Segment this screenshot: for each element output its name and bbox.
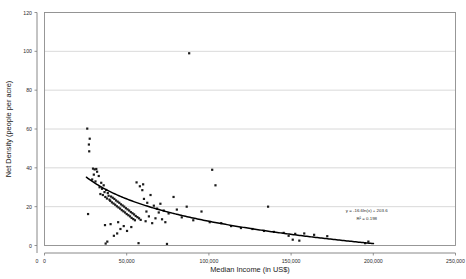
- svg-text:0: 0: [36, 258, 39, 264]
- svg-text:0: 0: [29, 243, 32, 249]
- data-point: [100, 182, 102, 184]
- data-point: [303, 232, 305, 234]
- data-point: [200, 210, 202, 212]
- data-point: [89, 138, 91, 140]
- data-point: [214, 184, 216, 186]
- data-point: [86, 128, 88, 130]
- data-point: [172, 196, 174, 198]
- data-point: [149, 194, 151, 196]
- data-point: [102, 194, 104, 196]
- data-point: [134, 219, 136, 221]
- data-point: [267, 206, 269, 208]
- data-point: [108, 195, 110, 197]
- data-point: [188, 52, 190, 54]
- svg-text:150,000: 150,000: [282, 258, 301, 264]
- data-point: [88, 143, 90, 145]
- data-point: [117, 221, 119, 223]
- data-point: [211, 169, 213, 171]
- data-point: [143, 198, 145, 200]
- data-point: [161, 218, 163, 220]
- data-point: [103, 184, 105, 186]
- data-point: [88, 150, 90, 152]
- data-point: [159, 203, 161, 205]
- svg-text:50,000: 50,000: [119, 258, 135, 264]
- data-point: [95, 168, 97, 170]
- svg-text:40: 40: [26, 165, 32, 171]
- x-axis-title: Median Income (in US$): [210, 265, 290, 274]
- svg-text:120: 120: [23, 10, 32, 16]
- svg-text:20: 20: [26, 204, 32, 210]
- data-point: [292, 239, 294, 241]
- data-point: [96, 171, 98, 173]
- data-point: [139, 185, 141, 187]
- gridlines: [45, 13, 456, 207]
- data-point: [151, 222, 153, 224]
- svg-text:200,000: 200,000: [364, 258, 383, 264]
- data-point: [181, 216, 183, 218]
- chart-container: 050,000100,000150,000200,000250,000 0204…: [0, 0, 466, 279]
- data-point: [116, 232, 118, 234]
- data-point: [146, 202, 148, 204]
- data-point: [135, 181, 137, 183]
- data-point: [113, 235, 115, 237]
- svg-text:0: 0: [43, 258, 46, 264]
- data-point: [98, 175, 100, 177]
- svg-text:100,000: 100,000: [200, 258, 219, 264]
- data-point: [176, 208, 178, 210]
- data-point: [140, 219, 142, 221]
- data-point: [119, 228, 121, 230]
- data-point: [153, 205, 155, 207]
- data-point: [137, 242, 139, 244]
- data-point: [105, 242, 107, 244]
- annotation-line-1: R² = 0.198: [356, 216, 377, 221]
- data-point: [164, 221, 166, 223]
- data-point: [298, 240, 300, 242]
- data-point: [93, 174, 95, 176]
- x-axis-ticks: 050,000100,000150,000200,000250,000: [43, 253, 465, 264]
- trendline-equation-annotation: y = -16.6ln(x) + 203.6R² = 0.198: [346, 208, 388, 221]
- data-points: [86, 52, 369, 245]
- svg-text:250,000: 250,000: [446, 258, 465, 264]
- data-point: [87, 213, 89, 215]
- data-point: [186, 206, 188, 208]
- svg-text:80: 80: [26, 87, 32, 93]
- data-point: [106, 241, 108, 243]
- data-point: [141, 189, 143, 191]
- data-point: [158, 211, 160, 213]
- data-point: [106, 197, 108, 199]
- data-point: [166, 243, 168, 245]
- data-point: [123, 225, 125, 227]
- data-point: [288, 235, 290, 237]
- data-point: [148, 215, 150, 217]
- data-point: [154, 217, 156, 219]
- data-point: [126, 230, 128, 232]
- svg-text:100: 100: [23, 48, 32, 54]
- scatter-chart: 050,000100,000150,000200,000250,000 0204…: [0, 0, 466, 279]
- y-axis-ticks: 0204060801001200: [23, 10, 38, 264]
- data-point: [192, 219, 194, 221]
- data-point: [130, 226, 132, 228]
- data-point: [104, 224, 106, 226]
- data-point: [313, 234, 315, 236]
- data-point: [107, 192, 109, 194]
- y-axis-title: Net Density (people per acre): [4, 81, 13, 178]
- data-point: [103, 191, 105, 193]
- data-point: [326, 235, 328, 237]
- data-point: [99, 193, 101, 195]
- data-point: [145, 210, 147, 212]
- data-point: [109, 223, 111, 225]
- data-point: [142, 183, 144, 185]
- svg-text:60: 60: [26, 126, 32, 132]
- annotation-line-0: y = -16.6ln(x) + 203.6: [346, 208, 388, 213]
- data-point: [145, 220, 147, 222]
